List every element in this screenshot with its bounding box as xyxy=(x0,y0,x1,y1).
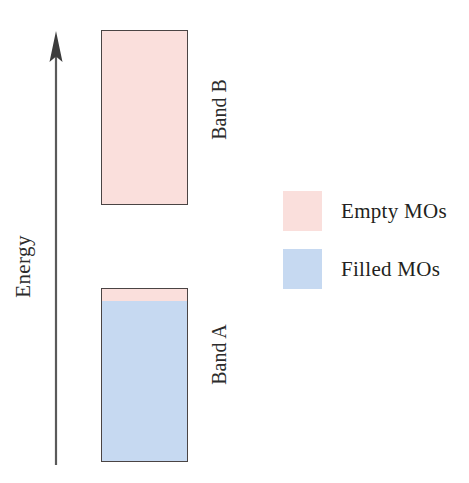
band-b-rect xyxy=(101,30,188,205)
band-b-label: Band B xyxy=(208,74,231,146)
legend-label-empty-mos: Empty MOs xyxy=(341,199,447,224)
band-a-label: Band A xyxy=(208,319,231,391)
band-a-filled-segment xyxy=(102,301,187,461)
band-a-rect xyxy=(101,288,188,462)
energy-axis-label: Energy xyxy=(11,217,36,317)
legend-item-filled-mos: Filled MOs xyxy=(283,248,463,290)
band-a-empty-segment xyxy=(102,289,187,301)
legend-label-filled-mos: Filled MOs xyxy=(341,257,440,282)
filled-mo-swatch xyxy=(283,249,322,289)
band-b-empty-segment xyxy=(102,31,187,204)
empty-mo-swatch xyxy=(283,191,322,231)
legend: Empty MOs Filled MOs xyxy=(283,190,463,306)
band-energy-diagram: Energy Band B Band A Empty MOs Filled MO… xyxy=(0,0,469,483)
legend-item-empty-mos: Empty MOs xyxy=(283,190,463,232)
